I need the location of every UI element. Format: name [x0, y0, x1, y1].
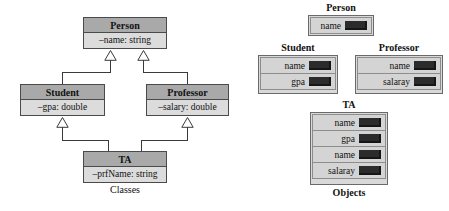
object-slot-label: gpa	[291, 77, 305, 87]
class-name-ta: TA	[84, 152, 166, 167]
object-label-ta: TA	[310, 99, 388, 110]
object-slot-ta-salaray[interactable]: salaray	[312, 162, 386, 179]
object-slot-ta-name-1[interactable]: name	[312, 114, 386, 131]
object-value-chip[interactable]	[359, 118, 381, 127]
generalization-line-professor-vertical-lower	[187, 72, 188, 84]
object-box-professor[interactable]: name salaray	[355, 55, 443, 94]
generalization-line-ta-student-horizontal	[62, 140, 109, 141]
object-slot-label: gpa	[341, 134, 355, 144]
object-value-chip[interactable]	[359, 166, 381, 175]
object-label-person: Person	[300, 2, 382, 13]
generalization-line-student-vertical-lower	[62, 72, 63, 84]
object-value-chip[interactable]	[359, 150, 381, 159]
generalization-line-ta-professor-vertical-upper	[187, 127, 188, 140]
class-name-person: Person	[84, 18, 166, 33]
generalization-line-ta-student-vertical-upper	[62, 127, 63, 140]
object-value-chip[interactable]	[309, 61, 331, 70]
object-slot-label: name	[389, 61, 410, 71]
caption-classes: Classes	[83, 184, 167, 195]
object-slot-student-gpa[interactable]: gpa	[260, 73, 336, 90]
class-attribute-person-name: –name: string	[84, 33, 166, 48]
generalization-line-professor-vertical-upper	[143, 60, 144, 72]
object-value-chip[interactable]	[359, 134, 381, 143]
object-value-chip[interactable]	[414, 77, 436, 86]
object-slot-ta-name-2[interactable]: name	[312, 146, 386, 163]
object-slot-label: name	[334, 150, 355, 160]
object-value-chip[interactable]	[309, 77, 331, 86]
object-slot-professor-name[interactable]: name	[357, 57, 441, 74]
class-attribute-professor-salary: –salary: double	[147, 100, 228, 115]
class-name-professor: Professor	[147, 85, 228, 100]
class-box-student[interactable]: Student –gpa: double	[20, 84, 105, 116]
generalization-line-professor-horizontal	[143, 72, 188, 73]
class-box-ta[interactable]: TA –prfName: string	[83, 151, 167, 183]
object-slot-person-name[interactable]: name	[310, 17, 372, 34]
object-slot-label: name	[320, 21, 341, 31]
object-slot-label: salaray	[383, 77, 410, 87]
uml-diagram-canvas: Person –name: string Student –gpa: doubl…	[0, 0, 449, 211]
class-attribute-ta-prfname: –prfName: string	[84, 167, 166, 182]
object-value-chip[interactable]	[345, 21, 367, 30]
object-box-student[interactable]: name gpa	[258, 55, 338, 94]
class-attribute-student-gpa: –gpa: double	[21, 100, 104, 115]
object-slot-label: name	[334, 118, 355, 128]
object-label-professor: Professor	[355, 42, 443, 53]
generalization-line-ta-professor-horizontal	[141, 140, 188, 141]
object-slot-ta-gpa[interactable]: gpa	[312, 130, 386, 147]
object-box-ta[interactable]: name gpa name salaray	[310, 112, 388, 185]
generalization-line-ta-student-vertical-lower	[108, 140, 109, 151]
object-label-student: Student	[258, 42, 338, 53]
generalization-line-student-horizontal	[62, 72, 111, 73]
generalization-line-ta-professor-vertical-lower	[141, 140, 142, 151]
class-name-student: Student	[21, 85, 104, 100]
object-slot-student-name[interactable]: name	[260, 57, 336, 74]
object-slot-label: salaray	[328, 166, 355, 176]
object-box-person[interactable]: name	[308, 15, 374, 36]
object-value-chip[interactable]	[414, 61, 436, 70]
object-slot-label: name	[284, 61, 305, 71]
class-box-person[interactable]: Person –name: string	[83, 17, 167, 49]
caption-objects: Objects	[310, 187, 388, 198]
generalization-line-student-vertical-upper	[110, 60, 111, 72]
object-slot-professor-salaray[interactable]: salaray	[357, 73, 441, 90]
class-box-professor[interactable]: Professor –salary: double	[146, 84, 229, 116]
